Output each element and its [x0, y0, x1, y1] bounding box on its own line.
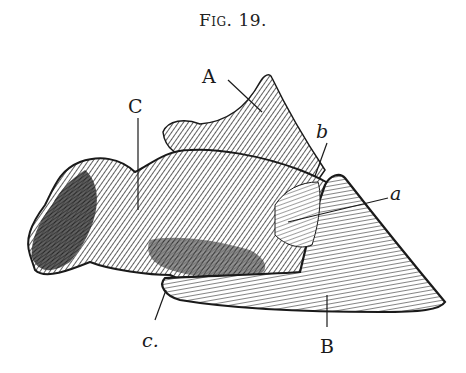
label-a: a	[390, 182, 401, 204]
leader-c	[155, 290, 166, 320]
label-A: A	[202, 65, 216, 87]
label-c: c.	[142, 329, 159, 351]
label-b: b	[316, 120, 328, 142]
label-C: C	[128, 95, 143, 117]
label-B: B	[320, 335, 334, 357]
